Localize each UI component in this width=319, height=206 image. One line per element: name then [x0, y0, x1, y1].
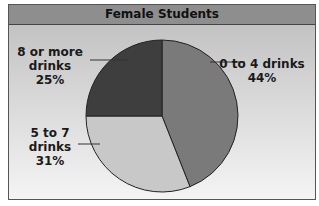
- slice-category-label: drinks: [29, 140, 71, 154]
- slice-value-label: 31%: [36, 154, 65, 168]
- slice-category-label: drinks: [29, 59, 71, 73]
- pie-chart: 0 to 4 drinks44%5 to 7drinks31%8 or more…: [0, 0, 319, 206]
- slice-category-label: 8 or more: [17, 45, 83, 59]
- pie-slice: [86, 40, 162, 116]
- slice-category-label: 5 to 7: [30, 126, 69, 140]
- slice-category-label: 0 to 4 drinks: [219, 57, 305, 71]
- slice-value-label: 25%: [36, 73, 65, 87]
- slice-value-label: 44%: [248, 71, 277, 85]
